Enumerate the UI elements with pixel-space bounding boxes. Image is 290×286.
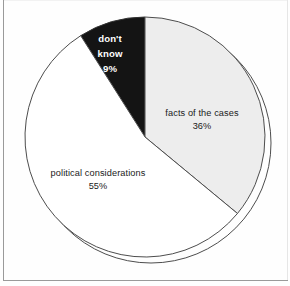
pie-label-political-considerations-text: political considerations: [51, 168, 146, 178]
pie-label-political-considerations-value: 55%: [89, 181, 108, 191]
chart-page: don'tknow9%facts of the cases36%politica…: [0, 0, 290, 286]
pie-label-don-t-know-value: 9%: [103, 63, 117, 74]
pie-label-don-t-know-text: don't: [98, 33, 122, 44]
pie-label-don-t-know-text: know: [98, 48, 123, 59]
pie-label-facts-of-the-cases-value: 36%: [193, 121, 212, 131]
pie-chart: don'tknow9%facts of the cases36%politica…: [0, 0, 290, 286]
pie-label-facts-of-the-cases-text: facts of the cases: [165, 108, 239, 118]
pie-slices-group: [25, 17, 265, 257]
